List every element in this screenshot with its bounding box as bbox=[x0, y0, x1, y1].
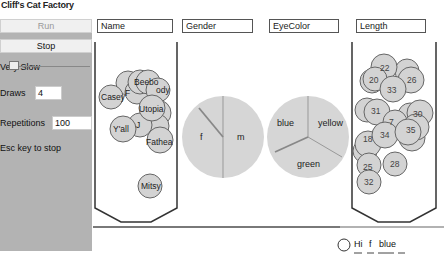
svg-text:Mitsy: Mitsy bbox=[141, 181, 162, 191]
svg-text:30: 30 bbox=[413, 109, 423, 119]
svg-text:yellow: yellow bbox=[318, 118, 344, 128]
svg-text:m: m bbox=[237, 132, 245, 142]
svg-text:35: 35 bbox=[406, 125, 416, 135]
simulation-canvas: Casey F Beebo ody Utopia Y'all J Fathea … bbox=[0, 0, 444, 269]
svg-text:26: 26 bbox=[407, 75, 417, 85]
svg-text:Utopia: Utopia bbox=[139, 104, 164, 114]
svg-text:blue: blue bbox=[277, 118, 294, 128]
svg-text:34: 34 bbox=[380, 130, 390, 140]
svg-text:28: 28 bbox=[390, 159, 400, 169]
ball-label: Casey bbox=[101, 92, 126, 102]
svg-text:25: 25 bbox=[363, 162, 373, 172]
svg-text:32: 32 bbox=[364, 177, 374, 187]
svg-text:Y'all: Y'all bbox=[113, 124, 129, 134]
svg-text:green: green bbox=[297, 159, 320, 169]
svg-text:20: 20 bbox=[369, 75, 379, 85]
result-gender: f bbox=[369, 239, 372, 249]
svg-text:22: 22 bbox=[380, 63, 390, 73]
svg-text:Fathea: Fathea bbox=[146, 137, 173, 147]
result-eyecolor: blue bbox=[379, 239, 396, 249]
result-name: Hi bbox=[354, 239, 363, 249]
result-cat-icon bbox=[338, 239, 350, 251]
svg-text:31: 31 bbox=[371, 106, 381, 116]
svg-text:18: 18 bbox=[363, 134, 373, 144]
svg-text:33: 33 bbox=[387, 85, 397, 95]
svg-text:7: 7 bbox=[389, 117, 394, 127]
svg-text:ody: ody bbox=[156, 85, 170, 95]
svg-text:F: F bbox=[125, 88, 130, 98]
svg-text:J: J bbox=[136, 120, 140, 130]
